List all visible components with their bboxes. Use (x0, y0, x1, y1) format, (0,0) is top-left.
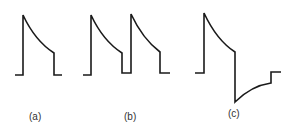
waveform-a (15, 15, 62, 75)
label-b: (b) (124, 111, 136, 122)
waveform-b (83, 14, 170, 75)
waveform-diagram (0, 0, 302, 132)
label-a: (a) (29, 111, 41, 122)
label-c: (c) (228, 108, 240, 119)
waveform-c (195, 13, 281, 102)
